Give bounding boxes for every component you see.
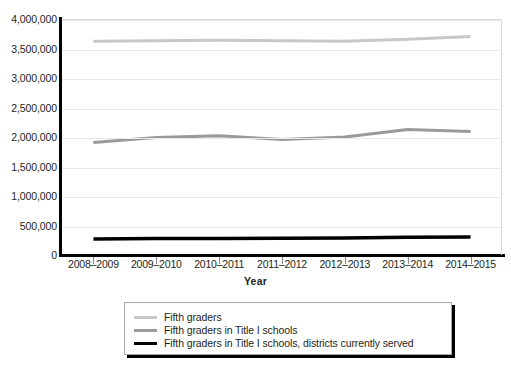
- legend-swatch: [134, 342, 157, 345]
- series-line: [93, 129, 470, 142]
- legend-item: Fifth graders in Title I schools: [134, 323, 297, 337]
- x-axis-tick-label: 2014–2015: [445, 258, 496, 270]
- x-axis-tick-label: 2008–2009: [68, 258, 119, 270]
- y-axis-tick-label: 2,500,000: [11, 103, 57, 113]
- legend-item: Fifth graders in Title I schools, distri…: [134, 336, 414, 350]
- gridline: [62, 168, 502, 169]
- x-axis-tick-label: 2010–2011: [194, 258, 244, 270]
- legend: Fifth gradersFifth graders in Title I sc…: [124, 302, 452, 355]
- line-chart: 0500,0001,000,0001,500,0002,000,0002,500…: [0, 0, 511, 367]
- legend-item: Fifth graders: [134, 310, 222, 324]
- x-axis-tick-label: 2009–2010: [131, 258, 182, 270]
- x-axis-tick-label: 2012–2013: [319, 258, 370, 270]
- series-line: [93, 237, 470, 239]
- y-axis-tick-label: 1,500,000: [11, 162, 57, 172]
- gridline: [62, 20, 502, 21]
- legend-label: Fifth graders in Title I schools, distri…: [164, 337, 414, 349]
- y-axis-tick-label: 1,000,000: [11, 191, 57, 201]
- series-line: [93, 37, 470, 42]
- y-axis-tick-label: 2,000,000: [11, 132, 57, 142]
- legend-swatch: [134, 316, 157, 319]
- gridline: [62, 50, 502, 51]
- plot-area: [62, 19, 502, 255]
- legend-label: Fifth graders: [164, 311, 222, 323]
- y-axis-labels: 0500,0001,000,0001,500,0002,000,0002,500…: [0, 0, 62, 270]
- gridline: [62, 227, 502, 228]
- legend-label: Fifth graders in Title I schools: [164, 324, 297, 336]
- x-axis-labels: 2008–20092009–20102010–20112011–20122012…: [0, 258, 511, 274]
- y-axis-tick-label: 3,000,000: [11, 73, 57, 83]
- y-axis-tick-label: 3,500,000: [11, 44, 57, 54]
- y-axis-tick-label: 500,000: [20, 221, 57, 231]
- gridline: [62, 197, 502, 198]
- x-axis-tick-label: 2011–2012: [257, 258, 307, 270]
- x-axis-tick-label: 2013–2014: [382, 258, 433, 270]
- legend-box: Fifth gradersFifth graders in Title I sc…: [124, 302, 452, 355]
- gridline: [62, 138, 502, 139]
- x-axis-title: Year: [0, 275, 511, 287]
- legend-swatch: [134, 329, 157, 332]
- y-axis-tick-label: 4,000,000: [11, 14, 57, 24]
- gridline: [62, 109, 502, 110]
- gridline: [62, 79, 502, 80]
